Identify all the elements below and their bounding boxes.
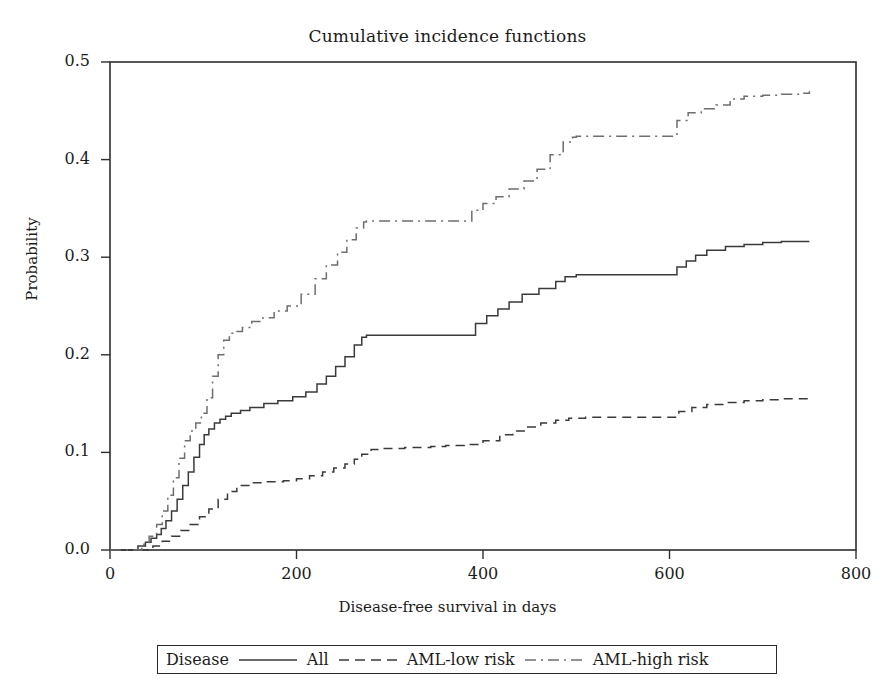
legend-swatch-dashed [337,654,399,666]
x-tick-label: 800 [821,564,891,583]
y-tick-label: 0.3 [44,246,90,265]
series-line-aml-high-risk [110,91,809,550]
series-line-aml-low-risk [110,399,809,550]
legend-entry-aml-high-risk: AML-high risk [521,650,715,669]
y-tick-label: 0.5 [44,51,90,70]
x-tick-label: 0 [75,564,145,583]
chart-figure: Cumulative incidence functions Probabili… [0,0,895,694]
y-tick-label: 0.2 [44,344,90,363]
series-line-all [110,242,809,550]
y-tick-label: 0.1 [44,441,90,460]
legend-entry-aml-low-risk: AML-low risk [335,650,521,669]
legend-label-aml-high-risk: AML-high risk [587,650,715,669]
legend: Disease All AML-low risk AML-high risk [157,645,777,674]
legend-swatch-solid [237,654,299,666]
plot-frame [110,62,856,550]
y-tick-label: 0.0 [44,539,90,558]
plot-area [0,0,895,694]
x-tick-label: 600 [635,564,705,583]
legend-label-all: All [301,650,335,669]
legend-label-aml-low-risk: AML-low risk [401,650,521,669]
legend-title: Disease [158,650,235,669]
x-tick-label: 200 [262,564,332,583]
x-tick-label: 400 [448,564,518,583]
legend-entry-all: All [235,650,335,669]
y-tick-label: 0.4 [44,149,90,168]
legend-swatch-dashdot [523,654,585,666]
